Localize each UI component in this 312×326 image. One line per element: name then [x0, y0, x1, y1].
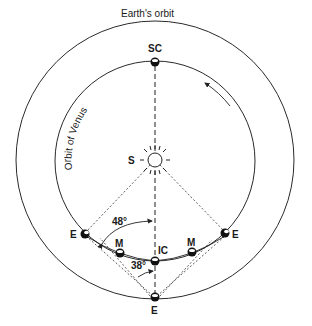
- angle-38-arc: [138, 271, 153, 277]
- mercury-left-label: M: [115, 238, 123, 249]
- earth-bottom-marker: [151, 293, 160, 302]
- ic-label: IC: [158, 245, 168, 256]
- angle-48-label: 48°: [112, 216, 127, 227]
- sc-label: SC: [148, 43, 162, 54]
- mercury-right-marker: [188, 248, 197, 257]
- sun-to-right-earth-line: [160, 165, 225, 232]
- earth-left-label: E: [70, 229, 77, 240]
- earth-orbit-label: Earth's orbit: [121, 8, 174, 19]
- motion-direction-arrow: [205, 83, 230, 106]
- sun-label: S: [128, 155, 135, 166]
- planet-ic-marker: [151, 257, 160, 266]
- earth-right-label: E: [232, 229, 239, 240]
- earth-right-marker: [221, 229, 230, 238]
- earth-bottom-label: E: [151, 305, 158, 316]
- mercury-left-marker: [116, 249, 125, 258]
- earth-left-marker: [81, 230, 90, 239]
- venus-elongation-diagram: Earth's orbit Orbit of Venus 48° 38°: [0, 0, 312, 326]
- angle-38-label: 38°: [131, 260, 146, 271]
- planet-sc-marker: [151, 58, 160, 67]
- mercury-right-label: M: [187, 237, 195, 248]
